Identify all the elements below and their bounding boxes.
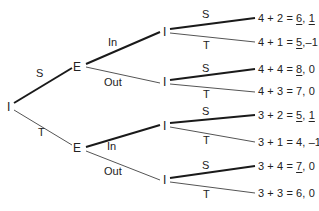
root-move-T-label: T xyxy=(38,127,45,138)
edge-I3-T xyxy=(170,127,255,142)
payoff-8: 3 + 3 = 6, 0 xyxy=(258,188,315,199)
payoff-p2: –1 xyxy=(305,36,317,48)
i1-move-T-label: T xyxy=(203,40,210,51)
root-node-I: I xyxy=(7,101,10,113)
i3-move-T-label: T xyxy=(203,135,210,146)
payoff-expr: 4 + 4 = xyxy=(258,63,296,75)
edge-I4-T xyxy=(170,182,255,193)
payoff-p2: 0 xyxy=(309,160,315,172)
payoff-p2: 0 xyxy=(309,187,315,199)
incumbent-node-1: I xyxy=(163,26,166,38)
e1-move-out-label: Out xyxy=(104,77,122,88)
payoff-expr: 4 + 3 = xyxy=(258,85,296,97)
i2-move-T-label: T xyxy=(203,89,210,100)
edge-I1-S xyxy=(170,18,255,29)
payoff-5: 3 + 2 = 5, 1 xyxy=(258,110,315,121)
payoff-expr: 3 + 1 = xyxy=(258,136,296,148)
payoff-expr: 4 + 1 = xyxy=(258,36,296,48)
payoff-p2: 0 xyxy=(309,63,315,75)
payoff-expr: 3 + 3 = xyxy=(258,187,296,199)
payoff-expr: 3 + 2 = xyxy=(258,109,296,121)
payoff-1: 4 + 2 = 6, 1 xyxy=(258,13,315,24)
edge-E2-In xyxy=(86,125,160,147)
e2-move-in-label: In xyxy=(107,141,116,152)
edge-E1-In xyxy=(86,32,160,64)
payoff-expr: 3 + 4 = xyxy=(258,160,296,172)
payoff-p2: 1 xyxy=(309,109,315,121)
payoff-p2: –1 xyxy=(309,136,319,148)
edge-I3-S xyxy=(170,115,255,123)
i4-move-S-label: S xyxy=(202,160,209,171)
edge-E2-Out xyxy=(86,151,160,180)
payoff-p2: 0 xyxy=(309,85,315,97)
edge-I2-S xyxy=(170,69,255,80)
incumbent-node-4: I xyxy=(163,174,166,186)
i3-move-S-label: S xyxy=(202,106,209,117)
payoff-6: 3 + 1 = 4, –1 xyxy=(258,137,319,148)
payoff-p2: 1 xyxy=(309,12,315,24)
e1-move-in-label: In xyxy=(108,37,117,48)
edge-I1-T xyxy=(170,33,255,42)
root-move-S-label: S xyxy=(36,68,43,79)
i1-move-S-label: S xyxy=(202,9,209,20)
edge-I4-S xyxy=(170,166,255,178)
payoff-4: 4 + 3 = 7, 0 xyxy=(258,86,315,97)
edge-I2-T xyxy=(170,84,255,92)
incumbent-node-2: I xyxy=(163,76,166,88)
game-tree-edges xyxy=(0,0,319,211)
e2-move-out-label: Out xyxy=(104,166,122,177)
i4-move-T-label: T xyxy=(203,189,210,200)
entrant-node-upper: E xyxy=(73,61,81,73)
payoff-2: 4 + 1 = 5,–1 xyxy=(258,37,318,48)
edge-E1-Out xyxy=(86,67,160,83)
payoff-expr: 4 + 2 = xyxy=(258,12,296,24)
payoff-7: 3 + 4 = 7, 0 xyxy=(258,161,315,172)
i2-move-S-label: S xyxy=(202,63,209,74)
entrant-node-lower: E xyxy=(73,142,81,154)
payoff-3: 4 + 4 = 8, 0 xyxy=(258,64,315,75)
incumbent-node-3: I xyxy=(163,120,166,132)
